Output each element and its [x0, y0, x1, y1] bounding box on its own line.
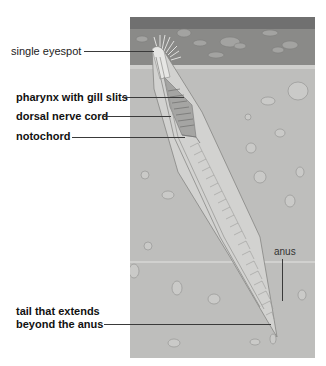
leader-notochord [72, 137, 185, 138]
label-tail-line2: beyond the anus [16, 318, 103, 331]
illustration-svg [130, 17, 315, 358]
leader-eyespot [84, 51, 154, 52]
leader-nerve-cord [103, 116, 171, 117]
label-tail-line1: tail that extends [16, 305, 100, 318]
leader-pharynx [122, 97, 184, 98]
label-pharynx: pharynx with gill slits [16, 91, 128, 104]
lancelet-illustration [130, 17, 315, 358]
label-dorsal-nerve-cord: dorsal nerve cord [16, 110, 108, 123]
label-anus: anus [274, 246, 296, 257]
leader-anus [282, 259, 283, 301]
label-notochord: notochord [16, 130, 70, 143]
leader-tail [104, 324, 271, 325]
label-single-eyespot: single eyespot [11, 45, 81, 58]
